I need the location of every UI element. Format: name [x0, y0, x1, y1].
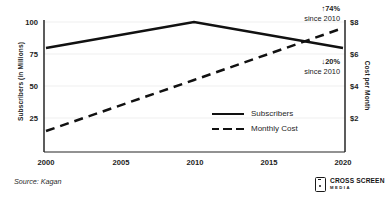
- y-tick-right-2: $2: [350, 114, 376, 123]
- series-monthly-cost-line: [46, 28, 343, 131]
- annotation-cost-increase: ↑74% since 2010: [236, 4, 340, 24]
- y-tick-left-100: 100: [12, 18, 38, 27]
- x-tick-2015: 2015: [249, 158, 289, 167]
- y-tick-right-8: $8: [350, 18, 376, 27]
- chart-legend: Subscribers Monthly Cost: [212, 106, 298, 136]
- y-tick-right-4: $4: [350, 82, 376, 91]
- annotation-subscribers-decline-pct: 20%: [325, 57, 340, 66]
- logo-wordmark: CROSS SCREEN MEDIA: [330, 178, 385, 190]
- x-tick-2005: 2005: [101, 158, 141, 167]
- legend-swatch-dashed-icon: [212, 124, 244, 134]
- mobile-device-icon: [315, 177, 326, 192]
- x-tick-2020: 2020: [323, 158, 363, 167]
- plot-area: [0, 0, 387, 202]
- y-tick-right-6: $6: [350, 50, 376, 59]
- logo-line-1: CROSS SCREEN: [330, 178, 385, 185]
- x-tick-2010: 2010: [175, 158, 215, 167]
- y-tick-left-75: 75: [12, 50, 38, 59]
- legend-label-subscribers: Subscribers: [251, 109, 293, 118]
- logo-line-2: MEDIA: [330, 186, 385, 190]
- chart-figure: Subscribers (in Millions) Cost per Month…: [0, 0, 387, 202]
- source-note: Source: Kagan: [14, 177, 62, 186]
- legend-item-subscribers[interactable]: Subscribers: [212, 106, 298, 121]
- y-tick-left-25: 25: [12, 114, 38, 123]
- series-subscribers-line: [46, 22, 343, 48]
- annotation-cost-increase-sub: since 2010: [236, 14, 340, 24]
- legend-label-monthly-cost: Monthly Cost: [251, 124, 298, 133]
- annotation-cost-increase-pct: 74%: [325, 4, 340, 13]
- annotation-subscribers-decline: ↓20% since 2010: [236, 57, 340, 77]
- x-tick-2000: 2000: [26, 158, 66, 167]
- legend-swatch-solid-icon: [212, 109, 244, 119]
- annotation-subscribers-decline-sub: since 2010: [236, 67, 340, 77]
- legend-item-monthly-cost[interactable]: Monthly Cost: [212, 121, 298, 136]
- cross-screen-media-logo: CROSS SCREEN MEDIA: [315, 177, 385, 192]
- y-tick-left-50: 50: [12, 82, 38, 91]
